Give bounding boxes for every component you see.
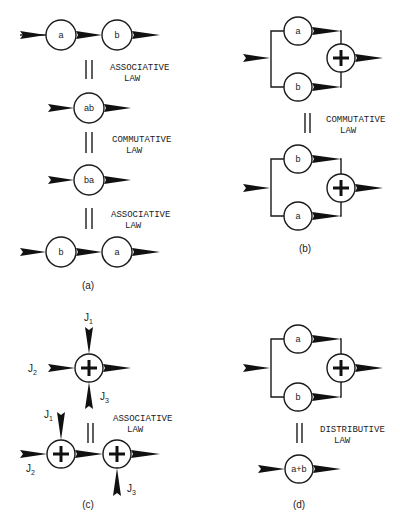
- arrow-icon: [104, 176, 131, 184]
- arrow-icon: [20, 31, 46, 39]
- panel-caption-a: (a): [82, 280, 94, 291]
- node-label: a+b: [291, 464, 306, 474]
- node-label: a: [295, 26, 300, 36]
- node-label: ab: [84, 103, 94, 113]
- law-label: ASSOCIATIVE: [113, 414, 172, 424]
- arrow-icon: [48, 364, 75, 372]
- arrow-icon: [313, 465, 341, 473]
- arrow-icon: [20, 450, 47, 458]
- node-label: a: [114, 247, 119, 257]
- arrow-icon: [85, 382, 93, 409]
- panel-caption-c: (c): [82, 499, 94, 510]
- panel-caption-b: (b): [299, 243, 311, 254]
- node-label: b: [295, 82, 300, 92]
- arrow-icon: [258, 465, 285, 473]
- signal-flow-diagram: a b ASSOCIATIVE LAW ab COMMUTATIVE LAW: [0, 0, 400, 525]
- input-label-j2: J2: [26, 463, 35, 476]
- node-label: b: [295, 392, 300, 402]
- arrow-icon: [355, 364, 383, 372]
- panel-caption-d: (d): [293, 499, 305, 510]
- single-node-ab: ab: [48, 93, 131, 123]
- equivalence-associative-2: ASSOCIATIVE LAW: [86, 208, 170, 231]
- equivalence-distributive: DISTRIBUTIVE LAW: [297, 423, 385, 446]
- arrow-icon: [48, 176, 74, 184]
- arrow-icon: [132, 248, 160, 256]
- arrow-icon: [131, 450, 160, 458]
- law-label: LAW: [334, 436, 351, 446]
- law-label: ASSOCIATIVE: [110, 63, 169, 73]
- input-label-j2: J2: [28, 363, 37, 376]
- arrow-icon: [76, 31, 102, 39]
- input-label-j3: J3: [127, 483, 136, 496]
- panel-b: a b COMMUTATIVE LAW b a: [243, 17, 385, 254]
- arrow-icon: [243, 184, 270, 192]
- law-label: ASSOCIATIVE: [111, 210, 170, 220]
- arrow-icon: [243, 54, 270, 62]
- series-row-ab: a b: [20, 20, 160, 50]
- arrow-icon: [104, 104, 131, 112]
- series-row-ba: b a: [20, 237, 160, 267]
- equivalence-commutative: COMMUTATIVE LAW: [86, 132, 171, 156]
- law-label: LAW: [340, 126, 357, 136]
- equivalence-associative: ASSOCIATIVE LAW: [88, 414, 172, 443]
- arrow-icon: [85, 327, 93, 354]
- arrow-icon: [312, 335, 341, 343]
- single-node-a-plus-b: a+b: [258, 455, 341, 483]
- arrow-icon: [57, 412, 65, 440]
- node-label: b: [295, 154, 300, 164]
- node-label: ba: [84, 175, 94, 185]
- parallel-network-ab: a b: [243, 17, 383, 101]
- law-label: LAW: [127, 425, 144, 435]
- arrow-icon: [355, 184, 383, 192]
- arrow-icon: [76, 248, 102, 256]
- law-label: COMMUTATIVE: [326, 115, 385, 125]
- single-node-ba: ba: [48, 165, 131, 195]
- panel-d: a b DISTRIBUTIVE LAW a+b (d): [243, 325, 385, 510]
- arrow-icon: [312, 83, 341, 91]
- arrow-icon: [75, 450, 103, 458]
- law-label: LAW: [125, 221, 142, 231]
- arrow-icon: [312, 155, 341, 163]
- arrow-icon: [20, 248, 46, 256]
- arrow-icon: [113, 468, 121, 496]
- node-label: a: [295, 211, 300, 221]
- parallel-network-ab: a b: [243, 325, 383, 411]
- panel-c: J1 J2 J3 ASSOCIATIVE LAW J1 J2: [20, 312, 172, 510]
- arrow-icon: [132, 31, 160, 39]
- input-label-j3: J3: [100, 391, 109, 404]
- law-label: LAW: [124, 74, 141, 84]
- arrow-icon: [355, 54, 383, 62]
- equivalence-associative-1: ASSOCIATIVE LAW: [86, 60, 169, 84]
- arrow-icon: [48, 104, 74, 112]
- three-input-sum: J1 J2 J3: [28, 312, 131, 409]
- arrow-icon: [103, 364, 131, 372]
- input-label-j1: J1: [44, 409, 53, 422]
- node-label: a: [58, 30, 63, 40]
- arrow-icon: [312, 393, 341, 401]
- arrow-icon: [312, 27, 341, 35]
- panel-a: a b ASSOCIATIVE LAW ab COMMUTATIVE LAW: [20, 20, 171, 291]
- input-label-j1: J1: [84, 312, 93, 325]
- arrow-icon: [243, 364, 270, 372]
- node-label: b: [58, 247, 63, 257]
- node-label: b: [114, 30, 119, 40]
- law-label: LAW: [126, 146, 143, 156]
- node-label: a: [295, 334, 300, 344]
- arrow-icon: [312, 212, 341, 220]
- parallel-network-ba: b a: [243, 145, 383, 230]
- law-label: DISTRIBUTIVE: [320, 425, 385, 435]
- law-label: COMMUTATIVE: [112, 135, 171, 145]
- equivalence-commutative: COMMUTATIVE LAW: [305, 113, 385, 136]
